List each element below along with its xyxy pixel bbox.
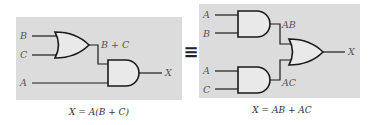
left-panel-background (16, 17, 182, 100)
intermediate-label-b-plus-c: B + C (100, 39, 130, 50)
right-circuit: A B AB A C AC X (199, 4, 360, 98)
right-caption: X = AB + AC (251, 105, 312, 115)
input-a2-label: A (202, 65, 210, 76)
intermediate-label-ab: AB (281, 19, 296, 30)
output-x-label: X (347, 46, 356, 57)
logic-equivalence-diagram: B C B + C A X X = A(B + C) ≡ A B AB A C … (0, 0, 370, 125)
input-b-label: B (202, 28, 210, 39)
input-b-label: B (19, 30, 27, 41)
intermediate-label-ac: AC (281, 77, 297, 88)
equivalence-symbol: ≡ (183, 41, 198, 62)
left-circuit: B C B + C A X (16, 17, 182, 100)
input-c-label: C (203, 84, 211, 95)
input-a-label: A (19, 77, 27, 88)
and-gate-icon (108, 60, 139, 86)
right-panel-background (199, 4, 360, 98)
input-c-label: C (20, 49, 28, 60)
input-a1-label: A (202, 9, 210, 20)
and-gate-bottom-icon (238, 67, 270, 93)
output-x-label: X (164, 67, 173, 78)
left-caption: X = A(B + C) (68, 107, 129, 117)
and-gate-top-icon (238, 11, 270, 37)
